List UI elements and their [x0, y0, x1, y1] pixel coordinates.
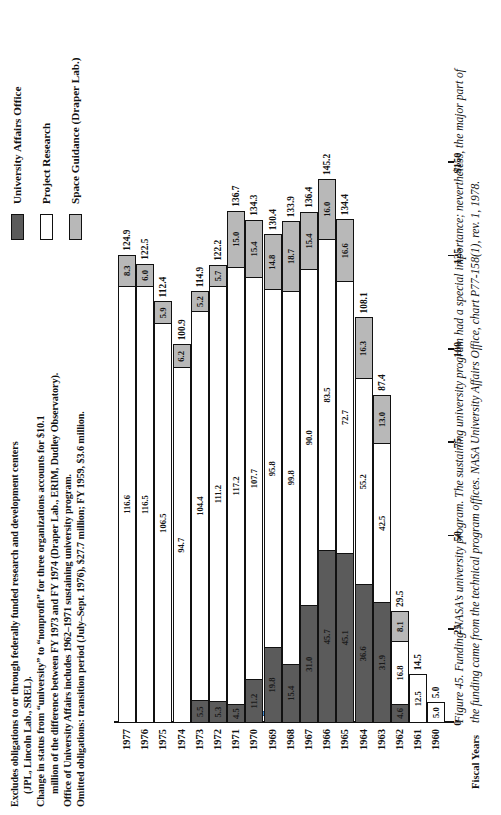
bar-segment: 106.5 — [155, 324, 171, 722]
bar-row: 1977116.68.3124.9 — [118, 230, 136, 723]
segment-value: 16.0 — [323, 202, 332, 217]
legend-label: Space Guidance (Draper Lab.) — [69, 58, 81, 204]
bar-segment: 15.0 — [228, 212, 244, 268]
bar-total-label: 108.1 — [359, 292, 369, 313]
stacked-bar: 11.2107.715.4 — [245, 220, 263, 723]
bar-row: 196545.172.716.6134.4 — [336, 194, 354, 723]
bar-row: 19725.3111.25.7122.2 — [209, 240, 227, 723]
segment-value: 12.5 — [414, 691, 423, 706]
bar-row: 196331.942.513.087.4 — [373, 374, 391, 723]
segment-value: 15.4 — [305, 234, 314, 249]
bar-segment: 5.0 — [428, 703, 444, 722]
category-label: 1976 — [136, 729, 154, 785]
bar-segment: 16.0 — [319, 180, 335, 240]
segment-value: 5.0 — [432, 707, 441, 718]
segment-value: 45.7 — [323, 629, 332, 644]
bar-segment: 15.4 — [283, 665, 299, 722]
segment-value: 90.0 — [305, 430, 314, 445]
bar-segment: 36.6 — [356, 585, 372, 722]
segment-value: 99.8 — [287, 470, 296, 485]
bar-segment: 16.8 — [392, 642, 408, 705]
category-label: 1974 — [173, 729, 191, 785]
bar-segment: 90.0 — [301, 270, 317, 606]
figure-caption: Figure 45. Funding NASA’s university pro… — [452, 63, 483, 723]
bar-total-label: 29.5 — [395, 590, 405, 606]
bar-total-label: 87.4 — [377, 374, 387, 390]
bar-row: 1975106.55.9112.4 — [154, 277, 172, 723]
segment-value: 15.4 — [287, 686, 296, 701]
segment-value: 6.0 — [141, 270, 150, 281]
figure-45: Excludes obligations to or through feder… — [0, 0, 501, 815]
bar-segment: 18.7 — [283, 222, 299, 292]
segment-value: 16.6 — [341, 243, 350, 258]
category-label: 1977 — [118, 729, 136, 785]
bar-segment: 12.5 — [410, 675, 426, 722]
category-label: 1962 — [391, 729, 409, 785]
category-label: 1975 — [154, 729, 172, 785]
bar-row: 197011.2107.715.4134.3 — [245, 195, 263, 723]
stacked-bar: 45.172.716.6 — [336, 219, 354, 723]
bar-segment: 13.0 — [374, 396, 390, 445]
rotated-figure-canvas: Excludes obligations to or through feder… — [0, 0, 501, 815]
bar-segment: 15.4 — [246, 221, 262, 278]
segment-value: 13.0 — [378, 412, 387, 427]
note-line: Office of University Affairs includes 19… — [61, 337, 74, 807]
segment-value: 106.5 — [159, 514, 168, 533]
bar-segment: 14.8 — [265, 235, 281, 290]
segment-value: 18.7 — [287, 249, 296, 264]
stacked-bar: 45.783.516.0 — [318, 179, 336, 723]
category-label: 1969 — [264, 729, 282, 785]
bar-segment: 42.5 — [374, 444, 390, 603]
category-label: 1966 — [318, 729, 336, 785]
bar-row: 196436.655.216.3108.1 — [355, 292, 373, 723]
bar-segment: 94.7 — [174, 368, 190, 722]
bar-segment: 8.1 — [392, 612, 408, 642]
segment-value: 55.2 — [359, 474, 368, 489]
segment-value: 72.7 — [341, 410, 350, 425]
segment-value: 5.2 — [196, 296, 205, 307]
bar-segment: 104.4 — [192, 312, 208, 702]
stacked-bar: 12.5 — [409, 674, 427, 723]
bar-segment: 83.5 — [319, 240, 335, 552]
legend-item: Space Guidance (Draper Lab.) — [64, 8, 86, 240]
stacked-bar: 5.5104.45.2 — [191, 291, 209, 723]
bar-segment: 116.5 — [137, 287, 153, 722]
segment-value: 19.8 — [268, 678, 277, 693]
stacked-bar: 5.0 — [427, 702, 445, 723]
legend-label: Project Research — [40, 123, 52, 204]
bar-segment: 4.5 — [228, 705, 244, 722]
bar-rows: 1977116.68.3124.91976116.56.0122.5197510… — [118, 103, 448, 723]
bar-segment: 111.2 — [210, 287, 226, 702]
bar-segment: 6.2 — [174, 345, 190, 368]
segment-value: 116.5 — [141, 495, 150, 514]
segment-value: 8.3 — [123, 265, 132, 276]
stacked-bar: 36.655.216.3 — [355, 317, 373, 723]
legend-swatch-icon — [69, 214, 82, 240]
bar-total-label: 14.5 — [413, 654, 423, 670]
category-label: 1970 — [245, 729, 263, 785]
category-label: 1968 — [282, 729, 300, 785]
chart-legend: University Affairs OfficeProject Researc… — [6, 8, 93, 240]
segment-value: 104.4 — [196, 496, 205, 515]
segment-value: 31.9 — [378, 655, 387, 670]
stacked-bar: 19.895.814.8 — [264, 234, 282, 723]
bar-segment: 6.0 — [137, 265, 153, 287]
bar-segment: 72.7 — [337, 282, 353, 553]
bar-segment: 15.4 — [301, 213, 317, 270]
bar-total-label: 114.9 — [195, 267, 205, 288]
bar-segment: 45.7 — [319, 551, 335, 722]
segment-value: 15.0 — [232, 232, 241, 247]
bar-segment: 31.0 — [301, 606, 317, 722]
bar-segment: 4.6 — [392, 705, 408, 722]
bar-total-label: 133.9 — [286, 196, 296, 217]
bar-total-label: 124.9 — [122, 230, 132, 251]
bar-segment: 5.2 — [192, 292, 208, 311]
bar-row: 19735.5104.45.2114.9 — [191, 267, 209, 723]
bar-row: 196919.895.814.8130.4 — [264, 209, 282, 723]
segment-value: 94.7 — [177, 538, 186, 553]
stacked-bar: 94.76.2 — [173, 344, 191, 723]
bar-row: 19605.05.0 — [427, 687, 445, 723]
segment-value: 4.6 — [396, 708, 405, 719]
stacked-bar: 31.090.015.4 — [300, 212, 318, 723]
note-line: million of the difference between FY 197… — [48, 337, 61, 807]
